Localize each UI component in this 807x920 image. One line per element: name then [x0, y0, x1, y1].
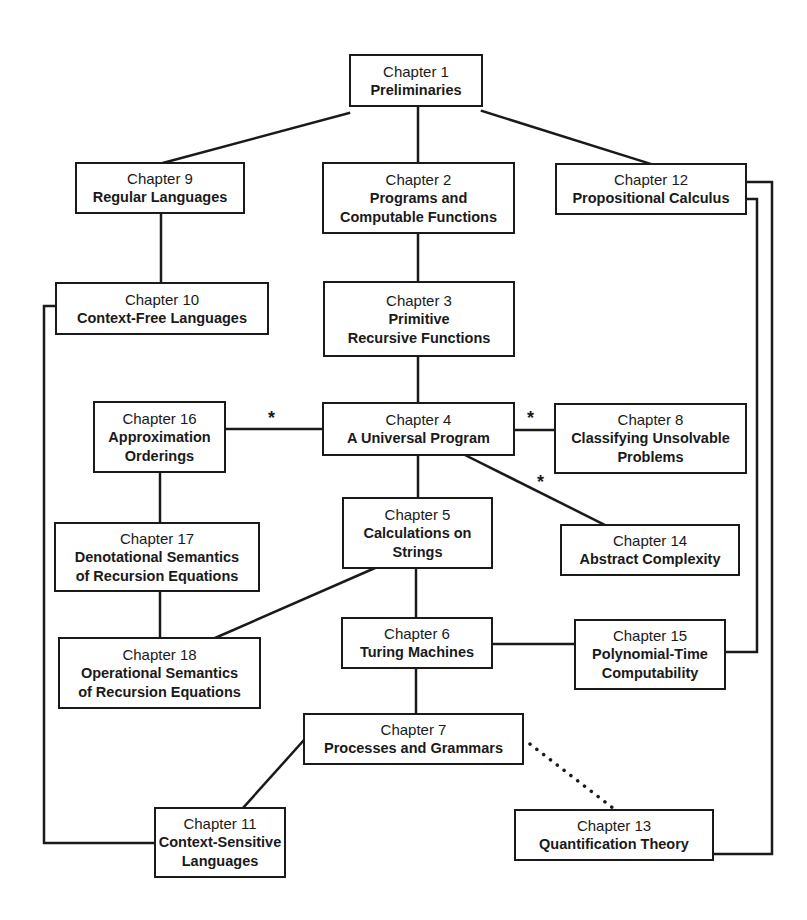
chapter-title: Abstract Complexity	[579, 550, 720, 569]
chapter-number: Chapter 13	[577, 816, 651, 835]
chapter-18-box: Chapter 18 Operational Semantics of Recu…	[58, 637, 261, 709]
marker-ch4-ch8: *	[527, 408, 534, 429]
chapter-title: Polynomial-Time Computability	[592, 645, 708, 683]
chapter-title: Approximation Orderings	[108, 428, 210, 466]
chapter-10-box: Chapter 10 Context-Free Languages	[55, 282, 269, 335]
chapter-14-box: Chapter 14 Abstract Complexity	[560, 524, 740, 576]
chapter-dependency-diagram: * * * Chapter 1 Preliminaries Chapter 9 …	[0, 0, 807, 920]
chapter-number: Chapter 14	[613, 531, 687, 550]
chapter-title: Processes and Grammars	[324, 739, 503, 758]
chapter-1-box: Chapter 1 Preliminaries	[349, 54, 483, 107]
chapter-6-box: Chapter 6 Turing Machines	[341, 617, 493, 669]
chapter-title: Context-Sensitive Languages	[159, 833, 281, 871]
marker-ch4-ch14: *	[537, 472, 544, 493]
chapter-number: Chapter 1	[383, 62, 449, 81]
chapter-title: Context-Free Languages	[77, 309, 247, 328]
chapter-number: Chapter 11	[183, 814, 256, 833]
chapter-number: Chapter 9	[127, 169, 193, 188]
edge-ch1-ch9	[163, 113, 349, 163]
chapter-title: Turing Machines	[360, 643, 474, 662]
chapter-number: Chapter 2	[386, 170, 452, 189]
edge-ch12-ch13	[714, 182, 772, 854]
chapter-number: Chapter 8	[618, 410, 684, 429]
chapter-3-box: Chapter 3 Primitive Recursive Functions	[323, 281, 515, 357]
chapter-7-box: Chapter 7 Processes and Grammars	[303, 713, 524, 765]
chapter-12-box: Chapter 12 Propositional Calculus	[555, 163, 747, 215]
chapter-number: Chapter 3	[386, 291, 452, 310]
chapter-title: Regular Languages	[93, 188, 228, 207]
chapter-9-box: Chapter 9 Regular Languages	[75, 162, 245, 214]
chapter-13-box: Chapter 13 Quantification Theory	[514, 809, 714, 861]
chapter-5-box: Chapter 5 Calculations on Strings	[342, 497, 493, 569]
marker-ch4-ch16: *	[268, 408, 275, 429]
chapter-number: Chapter 4	[386, 410, 452, 429]
chapter-title: Calculations on Strings	[364, 524, 472, 562]
chapter-number: Chapter 18	[122, 645, 196, 664]
chapter-2-box: Chapter 2 Programs and Computable Functi…	[322, 162, 515, 234]
edge-ch7-ch11	[243, 740, 304, 808]
chapter-number: Chapter 10	[125, 290, 199, 309]
chapter-title: Propositional Calculus	[572, 189, 729, 208]
chapter-4-box: Chapter 4 A Universal Program	[322, 402, 515, 456]
chapter-title: Classifying Unsolvable Problems	[571, 429, 730, 467]
chapter-title: Quantification Theory	[539, 835, 689, 854]
chapter-title: Operational Semantics of Recursion Equat…	[78, 664, 241, 702]
chapter-number: Chapter 6	[384, 624, 450, 643]
chapter-16-box: Chapter 16 Approximation Orderings	[93, 401, 226, 473]
chapter-title: Denotational Semantics of Recursion Equa…	[75, 548, 239, 586]
chapter-number: Chapter 17	[120, 529, 194, 548]
chapter-number: Chapter 15	[613, 626, 687, 645]
chapter-number: Chapter 7	[381, 720, 447, 739]
chapter-number: Chapter 16	[122, 409, 196, 428]
chapter-title: A Universal Program	[347, 429, 490, 448]
chapter-number: Chapter 12	[614, 170, 688, 189]
chapter-title: Primitive Recursive Functions	[348, 310, 491, 348]
chapter-11-box: Chapter 11 Context-Sensitive Languages	[154, 807, 286, 878]
chapter-number: Chapter 5	[385, 505, 451, 524]
chapter-title: Programs and Computable Functions	[340, 189, 497, 227]
chapter-17-box: Chapter 17 Denotational Semantics of Rec…	[54, 522, 260, 592]
edge-ch1-ch12	[482, 111, 651, 164]
chapter-15-box: Chapter 15 Polynomial-Time Computability	[574, 619, 726, 690]
chapter-8-box: Chapter 8 Classifying Unsolvable Problem…	[554, 403, 747, 474]
edge-ch7-ch13-dotted	[530, 744, 613, 808]
chapter-title: Preliminaries	[370, 81, 461, 100]
